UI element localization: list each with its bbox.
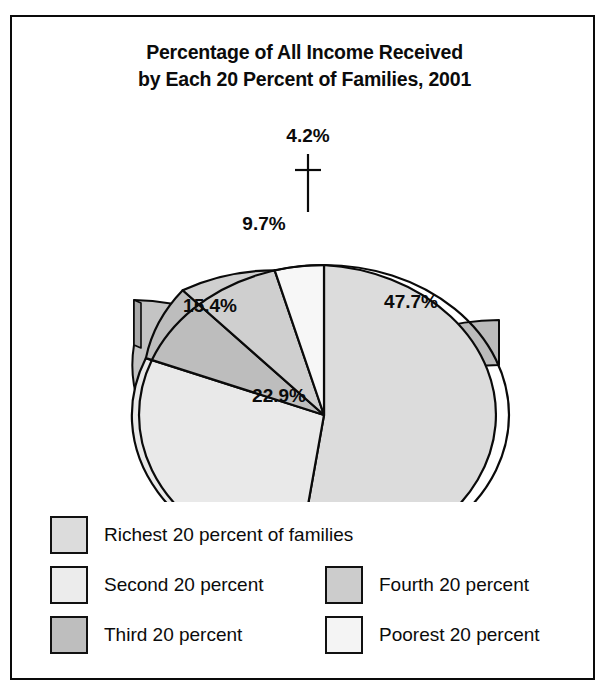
title-line-2: by Each 20 Percent of Families, 2001 (12, 66, 597, 93)
legend-label-poorest: Poorest 20 percent (379, 624, 540, 646)
pie-chart-svg: 4.2% 9.7% 15.4% 22.9% 47.7% (12, 112, 597, 502)
legend-label-fourth: Fourth 20 percent (379, 574, 529, 596)
pie-label-poorest: 4.2% (286, 125, 329, 146)
legend-swatch-second (50, 566, 88, 604)
pie-label-third: 15.4% (183, 295, 237, 316)
legend-swatch-third (50, 616, 88, 654)
legend-item-richest[interactable]: Richest 20 percent of families (50, 516, 353, 554)
pie-chart: 4.2% 9.7% 15.4% 22.9% 47.7% (12, 112, 597, 502)
pie-label-fourth: 9.7% (242, 213, 285, 234)
legend-item-fourth[interactable]: Fourth 20 percent (325, 566, 529, 604)
pie-label-richest: 47.7% (384, 291, 438, 312)
page-title: Percentage of All Income Received by Eac… (12, 39, 597, 93)
legend-label-richest: Richest 20 percent of families (104, 524, 353, 546)
figure-frame: Percentage of All Income Received by Eac… (10, 15, 595, 680)
legend-item-poorest[interactable]: Poorest 20 percent (325, 616, 540, 654)
callout-leader-line-poorest (295, 154, 321, 212)
legend-swatch-poorest (325, 616, 363, 654)
title-line-1: Percentage of All Income Received (12, 39, 597, 66)
legend-swatch-fourth (325, 566, 363, 604)
legend: Richest 20 percent of families Second 20… (12, 512, 597, 677)
pie-label-second: 22.9% (252, 385, 306, 406)
legend-item-second[interactable]: Second 20 percent (50, 566, 264, 604)
legend-swatch-richest (50, 516, 88, 554)
legend-item-third[interactable]: Third 20 percent (50, 616, 242, 654)
legend-label-second: Second 20 percent (104, 574, 264, 596)
legend-label-third: Third 20 percent (104, 624, 242, 646)
